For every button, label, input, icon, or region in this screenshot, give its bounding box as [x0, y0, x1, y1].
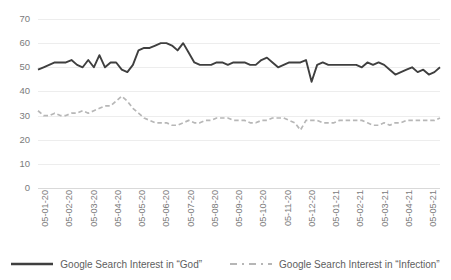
legend-item-god[interactable]: Google Search Interest in “God” [11, 259, 202, 270]
x-axis-tick-label: 05-08-20 [210, 190, 220, 227]
y-axis-tick-label: 70 [19, 14, 30, 24]
x-axis-tick-label: 05-11-20 [283, 190, 293, 226]
x-axis-tick-label: 05-07-20 [186, 190, 196, 227]
x-axis-tick-label: 05-12-20 [307, 190, 317, 227]
x-axis-tick-label: 05-06-20 [161, 190, 171, 227]
x-axis-line [38, 188, 440, 189]
x-axis: 05-01-2005-02-2005-03-2005-04-2005-05-20… [38, 190, 440, 248]
x-axis-tick-label: 05-03-21 [380, 190, 390, 227]
y-axis-tick-label: 30 [19, 111, 30, 121]
line-chart: 706050403020100 05-01-2005-02-2005-03-20… [0, 0, 451, 280]
chart-legend: Google Search Interest in “God” Google S… [0, 252, 451, 276]
x-axis-tick-label: 05-09-20 [234, 190, 244, 227]
y-axis-tick-label: 0 [25, 183, 30, 193]
legend-label-infection: Google Search Interest in “Infection” [279, 259, 440, 270]
series-layer [38, 19, 440, 188]
x-axis-tick-label: 05-02-20 [64, 190, 74, 227]
legend-label-god: Google Search Interest in “God” [60, 259, 202, 270]
x-axis-tick-label: 05-03-20 [89, 190, 99, 227]
y-axis-tick-label: 50 [19, 62, 30, 72]
y-axis: 706050403020100 [0, 0, 34, 200]
x-axis-tick-label: 05-04-21 [404, 190, 414, 227]
legend-key-solid-icon [11, 259, 53, 269]
y-axis-tick-label: 60 [19, 38, 30, 48]
series-line-god [38, 43, 440, 82]
x-axis-tick-label: 05-02-21 [355, 190, 365, 227]
plot-area: 706050403020100 [0, 0, 451, 200]
x-axis-tick-label: 05-05-20 [137, 190, 147, 227]
legend-item-infection[interactable]: Google Search Interest in “Infection” [230, 259, 440, 270]
y-axis-tick-label: 10 [19, 159, 30, 169]
legend-key-dashed-icon [230, 259, 272, 269]
x-axis-tick-label: 05-04-20 [113, 190, 123, 227]
y-axis-tick-label: 40 [19, 86, 30, 96]
series-line-infection [38, 96, 440, 130]
x-axis-tick-label: 05-01-20 [40, 190, 50, 227]
y-axis-tick-label: 20 [19, 135, 30, 145]
x-axis-tick-label: 05-01-21 [331, 190, 341, 227]
x-axis-tick-label: 05-05-21 [428, 190, 438, 227]
grid-and-series [38, 19, 440, 188]
x-axis-tick-label: 05-10-20 [258, 190, 268, 227]
